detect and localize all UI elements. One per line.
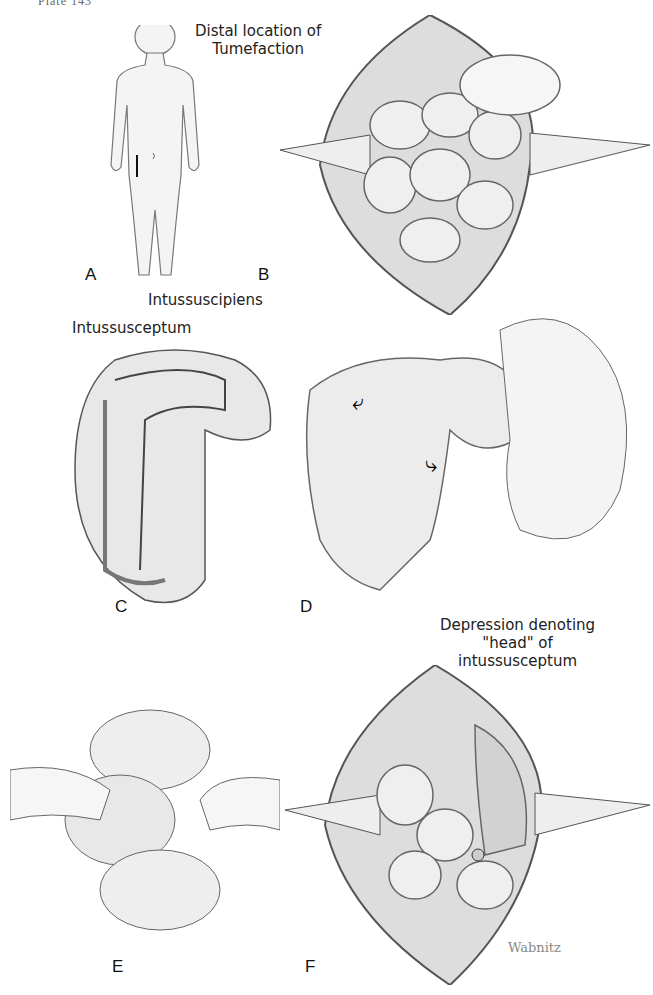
label-line-2: Tumefaction: [195, 40, 321, 58]
panel-d-reduction: [300, 310, 650, 600]
label-intussusceptum: Intussusceptum: [72, 319, 191, 337]
label-depression-head: Depression denoting "head" of intussusce…: [440, 616, 595, 670]
hands-milking-illustration: [10, 690, 280, 940]
curved-arrow-left-icon: ⤶: [352, 390, 364, 415]
label-line-2: "head" of: [440, 634, 595, 652]
artist-signature: Wabnitz: [508, 940, 561, 955]
panel-a-figure: [95, 25, 215, 280]
child-figure-illustration: [95, 25, 215, 280]
panel-letter-b: B: [258, 265, 269, 285]
opened-abdomen-illustration: [280, 15, 650, 315]
panel-e-milking: [10, 690, 280, 940]
panel-letter-f: F: [305, 957, 315, 977]
label-distal-tumefaction: Distal location of Tumefaction: [195, 22, 321, 58]
panel-letter-e: E: [112, 957, 123, 977]
post-reduction-abdomen-illustration: [285, 665, 650, 985]
panel-f-after-reduction: [285, 665, 650, 985]
panel-letter-c: C: [115, 597, 127, 617]
label-line-1: Depression denoting: [440, 616, 595, 634]
plate-header: Plate 143: [38, 0, 92, 9]
label-line-3: intussusceptum: [440, 652, 595, 670]
panel-b-surgical-field: [280, 15, 650, 315]
label-line-1: Distal location of: [195, 22, 321, 40]
panel-letter-d: D: [300, 597, 312, 617]
panel-c-section: [55, 320, 280, 615]
curved-arrow-down-icon: ⤷: [425, 452, 437, 477]
intussusception-section-illustration: [55, 320, 280, 615]
label-intussuscipiens: Intussuscipiens: [148, 291, 263, 309]
panel-letter-a: A: [85, 265, 96, 285]
manual-reduction-illustration: [300, 310, 650, 600]
